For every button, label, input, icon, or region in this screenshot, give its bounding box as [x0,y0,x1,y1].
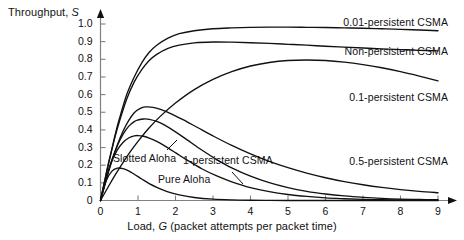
x-tick-label: 4 [241,205,261,217]
series-label: 0.1-persistent CSMA [349,91,448,103]
series-line [101,168,439,201]
x-axis-title-suffix: (packet attempts per packet time) [167,220,337,232]
y-tick-label: 0 [63,194,93,206]
y-tick-label: 0.2 [63,158,93,170]
y-tick-label: 0.6 [63,88,93,100]
series-line [101,136,439,201]
x-tick-label: 9 [428,205,448,217]
series-label: 0.01-persistent CSMA [343,16,448,28]
x-tick-label: 7 [353,205,373,217]
y-tick-label: 0.7 [63,70,93,82]
x-axis-title-prefix: Load, [127,220,158,232]
series-label: Non-persistent CSMA [345,45,448,57]
x-tick-label: 3 [203,205,223,217]
x-tick-label: 5 [278,205,298,217]
x-tick-label: 2 [166,205,186,217]
y-tick-label: 1.0 [63,17,93,29]
series-line [101,42,439,201]
series-label: Slotted Aloha [113,152,176,164]
series-label: 0.5-persistent CSMA [349,155,448,167]
x-tick-label: 1 [128,205,148,217]
series-label: Pure Aloha [158,173,210,185]
x-tick-label: 0 [91,205,111,217]
y-tick-label: 0.4 [63,123,93,135]
x-tick-label: 6 [316,205,336,217]
series-label: 1-persistent CSMA [183,154,273,166]
x-axis-title: Load, G (packet attempts per packet time… [0,220,464,232]
series-line [101,60,439,200]
y-tick-label: 0.5 [63,105,93,117]
y-tick-label: 0.3 [63,141,93,153]
y-tick-label: 0.9 [63,35,93,47]
x-tick-label: 8 [391,205,411,217]
y-tick-label: 0.8 [63,52,93,64]
x-axis-variable: G [158,220,167,232]
leader-line [167,140,177,150]
chart-figure: Throughput, S Load, G (packet attempts p… [0,0,464,240]
y-tick-label: 0.1 [63,176,93,188]
